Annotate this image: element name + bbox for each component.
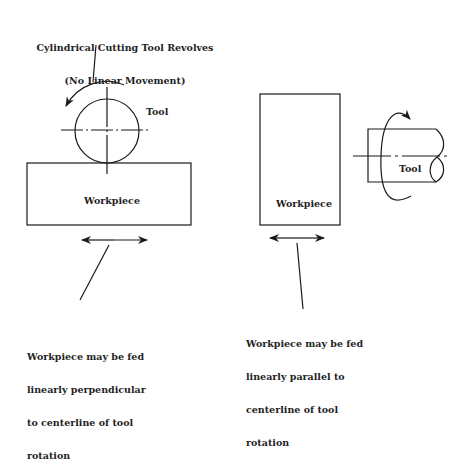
- tool-label-right: Tool: [399, 163, 421, 174]
- caption-left: Workpiece may be fed linearly perpendicu…: [27, 329, 146, 463]
- caption-line: linearly parallel to: [246, 371, 363, 382]
- title-line: Cylindrical Cutting Tool Revolves: [30, 42, 220, 53]
- left-title: Cylindrical Cutting Tool Revolves (No Li…: [30, 20, 220, 97]
- caption-line: linearly perpendicular: [27, 384, 146, 395]
- caption-line: rotation: [27, 450, 146, 461]
- caption-right: Workpiece may be fed linearly parallel t…: [246, 316, 363, 459]
- caption-line: Workpiece may be fed: [27, 351, 146, 362]
- caption-line: to centerline of tool: [27, 417, 146, 428]
- tool-label-left: Tool: [146, 106, 168, 117]
- workpiece-label-left: Workpiece: [84, 195, 140, 206]
- caption-line: centerline of tool: [246, 404, 363, 415]
- caption-line: rotation: [246, 437, 363, 448]
- workpiece-rect-left: [27, 163, 191, 225]
- workpiece-label-right: Workpiece: [276, 198, 332, 209]
- caption-leader-right: [297, 243, 303, 309]
- caption-line: Workpiece may be fed: [246, 338, 363, 349]
- title-line: (No Linear Movement): [30, 75, 220, 86]
- caption-leader-left: [80, 245, 109, 300]
